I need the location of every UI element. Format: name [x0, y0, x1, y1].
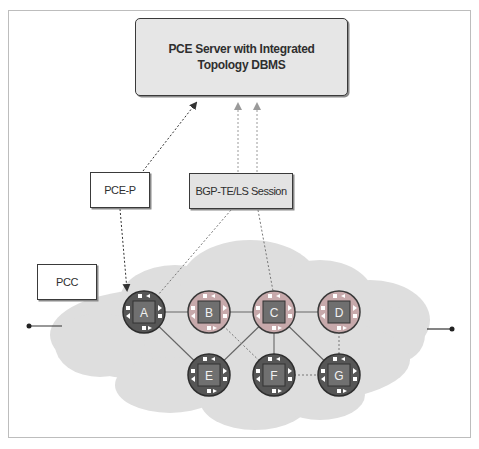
node-B: B	[188, 291, 230, 333]
svg-text:A: A	[140, 306, 148, 320]
node-D: D	[318, 291, 360, 333]
node-C: C	[253, 291, 295, 333]
bgp-session-box: BGP-TE/LS Session	[189, 173, 293, 209]
pcc-label: PCC	[56, 276, 78, 288]
svg-text:D: D	[335, 306, 344, 320]
network-cloud	[50, 240, 430, 430]
pcc-label-box: PCC	[37, 264, 97, 300]
node-G: G	[318, 354, 360, 396]
svg-text:B: B	[205, 306, 213, 320]
svg-text:F: F	[270, 369, 277, 383]
node-A: A	[123, 291, 165, 333]
node-E: E	[188, 354, 230, 396]
bgp-session-label: BGP-TE/LS Session	[195, 185, 286, 197]
svg-text:G: G	[334, 369, 343, 383]
pce-server-title-line2: Topology DBMS	[168, 57, 314, 73]
pce-server-box: PCE Server with Integrated Topology DBMS	[135, 18, 348, 96]
svg-text:E: E	[205, 369, 213, 383]
diagram-canvas: A B C D E F	[0, 0, 479, 449]
pce-server-title-line1: PCE Server with Integrated	[168, 41, 314, 57]
svg-text:C: C	[270, 306, 279, 320]
node-F: F	[253, 354, 295, 396]
pcep-label-box: PCE-P	[90, 172, 150, 208]
pcep-label: PCE-P	[104, 184, 136, 196]
